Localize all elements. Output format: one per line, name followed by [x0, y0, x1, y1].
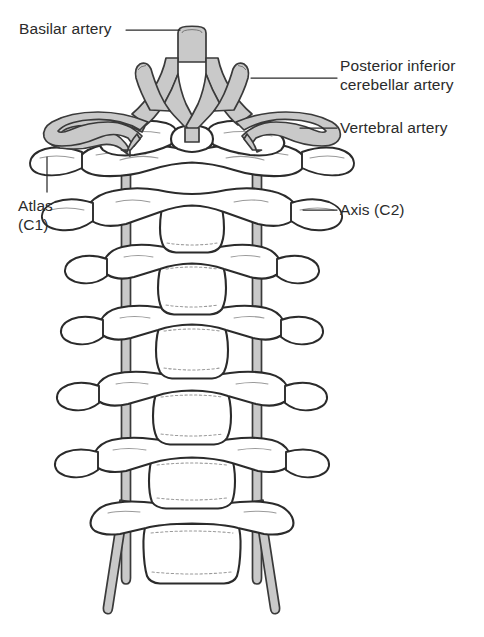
cervical-spine-diagram: .bone { fill:#ffffff; stroke:#2b2b2b; st… [0, 0, 484, 637]
label-atlas-line2: (C1) [18, 216, 49, 233]
atlas-transverse-left [30, 148, 82, 176]
c7-body [143, 524, 240, 584]
label-vertebral-artery: Vertebral artery [340, 118, 448, 137]
label-atlas-c1: Atlas (C1) [18, 196, 98, 234]
label-posterior-inferior-cerebellar-artery: Posterior inferior cerebellar artery [340, 56, 484, 94]
figure-canvas: .bone { fill:#ffffff; stroke:#2b2b2b; st… [0, 0, 484, 637]
c3-transverse-left [65, 256, 107, 284]
label-vertebral-artery-text: Vertebral artery [340, 119, 448, 136]
c5-transverse-right [285, 383, 327, 411]
atlas-transverse-right [302, 148, 354, 176]
label-axis-c2: Axis (C2) [340, 200, 405, 219]
label-basilar-artery-text: Basilar artery [19, 20, 112, 37]
c5-transverse-left [57, 383, 99, 411]
vertebral-confluence-stem [185, 128, 199, 142]
c6-transverse-right [286, 450, 329, 478]
label-basilar-artery: Basilar artery [19, 19, 112, 38]
c4-transverse-right [281, 317, 323, 345]
label-pica-line2: cerebellar artery [340, 76, 454, 93]
c6-transverse-left [55, 450, 98, 478]
c4-transverse-left [61, 317, 103, 345]
label-pica-line1: Posterior inferior [340, 57, 456, 74]
axis-transverse-right [291, 199, 342, 230]
label-axis-text: Axis (C2) [340, 201, 405, 218]
c3-transverse-right [277, 256, 319, 284]
label-atlas-line1: Atlas [18, 197, 53, 214]
